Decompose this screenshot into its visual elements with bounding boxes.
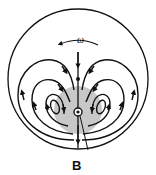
point-b-label: B xyxy=(72,158,81,173)
field-diagram xyxy=(0,0,156,175)
center-dot xyxy=(76,110,79,113)
omega-label: ω xyxy=(77,34,84,45)
axis-dot xyxy=(76,77,80,81)
